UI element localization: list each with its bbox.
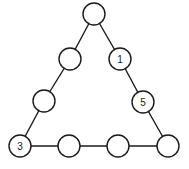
node-bottom-mid-2 [107, 135, 129, 157]
node-top [83, 3, 105, 25]
node-left-middle [33, 90, 55, 112]
node-circle [33, 90, 55, 112]
node-circle [59, 48, 81, 70]
edges-layer [20, 14, 168, 146]
node-label: 3 [17, 141, 23, 152]
node-circle [107, 135, 129, 157]
nodes-layer: 153 [9, 3, 179, 157]
node-bottom-right [157, 135, 179, 157]
node-label: 1 [117, 54, 123, 65]
node-bottom-mid-1 [58, 135, 80, 157]
diagram-canvas: 153 [0, 0, 189, 169]
node-left-upper [59, 48, 81, 70]
triangle-puzzle-diagram: 153 [0, 0, 189, 169]
node-right-middle: 5 [132, 91, 154, 113]
node-label: 5 [140, 97, 146, 108]
node-bottom-left: 3 [9, 135, 31, 157]
node-right-upper: 1 [109, 48, 131, 70]
node-circle [157, 135, 179, 157]
node-circle [58, 135, 80, 157]
node-circle [83, 3, 105, 25]
